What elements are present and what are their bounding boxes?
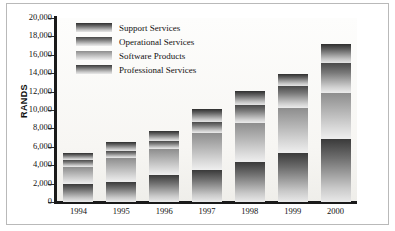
bar-segment: [149, 131, 179, 141]
legend-item: Professional Services: [76, 63, 196, 76]
y-axis-title: RANDS: [19, 61, 29, 141]
y-tick-mark: [48, 110, 54, 111]
bar-segment: [63, 167, 93, 184]
y-tick-label: 4,000: [6, 160, 52, 169]
legend-item: Software Products: [76, 49, 196, 62]
bar-segment: [106, 151, 136, 157]
bar-segment: [63, 153, 93, 159]
y-tick-mark: [48, 18, 54, 19]
y-tick-label: 12,000: [6, 87, 52, 96]
y-tick-mark: [48, 202, 54, 203]
legend-label: Support Services: [119, 23, 180, 33]
y-tick-label: 10,000: [6, 105, 52, 114]
y-tick-mark: [48, 36, 54, 37]
x-tick-label: 2000: [314, 206, 358, 216]
bar-segment: [321, 93, 351, 140]
bar-segment: [192, 133, 222, 170]
y-tick-label: 18,000: [6, 31, 52, 40]
bar-segment: [63, 160, 93, 167]
x-tick-label: 1994: [56, 206, 100, 216]
bar-1999: [278, 18, 308, 202]
bar-segment: [192, 122, 222, 133]
bar-segment: [278, 86, 308, 108]
bar-segment: [192, 109, 222, 122]
bar-segment: [278, 74, 308, 86]
y-tick-mark: [48, 55, 54, 56]
bar-segment: [278, 153, 308, 202]
y-tick-label: 20,000: [6, 13, 52, 22]
legend-swatch-icon: [76, 37, 112, 46]
bar-1997: [192, 18, 222, 202]
bar-segment: [106, 142, 136, 151]
x-tick-label: 1996: [142, 206, 186, 216]
x-tick-label: 1995: [99, 206, 143, 216]
y-tick-mark: [48, 184, 54, 185]
legend-item: Support Services: [76, 21, 196, 34]
x-axis-tick-labels: 1994199519961997199819992000: [57, 206, 357, 222]
y-tick-mark: [48, 165, 54, 166]
legend-swatch-icon: [76, 65, 112, 74]
bar-segment: [106, 182, 136, 202]
y-tick-mark: [48, 147, 54, 148]
legend-item: Operational Services: [76, 35, 196, 48]
bar-segment: [235, 105, 265, 122]
bar-segment: [63, 184, 93, 202]
bar-segment: [278, 108, 308, 153]
legend-swatch-icon: [76, 23, 112, 32]
bar-1998: [235, 18, 265, 202]
y-tick-label: 0: [6, 197, 52, 206]
chart-figure: 02,0004,0006,0008,00010,00012,00014,0001…: [0, 0, 395, 231]
x-tick-label: 1998: [228, 206, 272, 216]
bar-segment: [149, 175, 179, 202]
bar-segment: [321, 44, 351, 63]
y-tick-label: 2,000: [6, 179, 52, 188]
bar-segment: [149, 141, 179, 148]
bar-2000: [321, 18, 351, 202]
x-tick-label: 1997: [185, 206, 229, 216]
bar-segment: [192, 170, 222, 202]
legend-label: Software Products: [119, 51, 185, 61]
bar-segment: [235, 162, 265, 202]
y-tick-label: 16,000: [6, 50, 52, 59]
bar-segment: [235, 123, 265, 162]
bar-segment: [149, 149, 179, 176]
bar-segment: [106, 158, 136, 182]
y-tick-mark: [48, 128, 54, 129]
y-tick-mark: [48, 73, 54, 74]
legend-label: Operational Services: [119, 37, 194, 47]
y-tick-label: 6,000: [6, 142, 52, 151]
x-tick-label: 1999: [271, 206, 315, 216]
legend-label: Professional Services: [119, 65, 196, 75]
bar-segment: [321, 63, 351, 92]
y-tick-label: 8,000: [6, 123, 52, 132]
bar-segment: [235, 91, 265, 106]
bar-segment: [321, 139, 351, 202]
legend: Support ServicesOperational ServicesSoft…: [76, 21, 196, 77]
y-tick-label: 14,000: [6, 68, 52, 77]
legend-swatch-icon: [76, 51, 112, 60]
y-tick-mark: [48, 92, 54, 93]
